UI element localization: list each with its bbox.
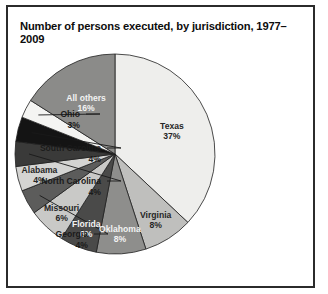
slice-value-missouri: 6% — [55, 213, 68, 223]
slice-value-texas: 37% — [163, 131, 181, 141]
slice-value-north-carolina: 4% — [89, 187, 102, 197]
slice-label-texas: Texas — [160, 121, 184, 131]
slice-value-oklahoma: 8% — [114, 234, 127, 244]
pie-chart-svg: Texas37%Virginia8%Oklahoma8%Florida6%Mis… — [8, 41, 313, 286]
slice-label-missouri: Missouri — [44, 203, 79, 213]
slice-value-georgia: 4% — [76, 240, 89, 250]
slice-label-florida: Florida — [72, 219, 101, 229]
slice-label-ohio: Ohio — [60, 109, 80, 119]
slice-label-alabama: Alabama — [22, 165, 58, 175]
slice-label-north-carolina: North Carolina — [41, 176, 101, 186]
chart-figure: Number of persons executed, by jurisdict… — [6, 5, 315, 288]
pie-chart-plot-area: Texas37%Virginia8%Oklahoma8%Florida6%Mis… — [8, 41, 313, 286]
slice-value-ohio: 3% — [68, 120, 81, 130]
slice-label-virginia: Virginia — [140, 210, 172, 220]
slice-value-all-others: 16% — [77, 103, 95, 113]
slice-label-south-carolina: South Carolina — [40, 143, 101, 153]
slice-label-oklahoma: Oklahoma — [99, 224, 141, 234]
slice-value-virginia: 8% — [149, 220, 162, 230]
slice-label-all-others: All others — [66, 93, 106, 103]
slice-value-south-carolina: 4% — [89, 154, 102, 164]
slice-label-georgia: Georgia — [56, 229, 89, 239]
